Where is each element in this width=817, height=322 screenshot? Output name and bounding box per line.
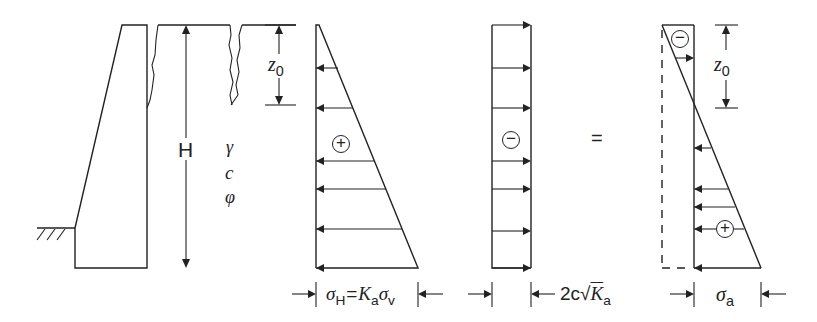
positive-sign-icon: +	[332, 135, 350, 153]
equals-sign: =	[591, 128, 603, 148]
diagram-net-pressure	[662, 25, 761, 272]
positive-sign-icon: +	[716, 220, 734, 238]
unit-weight-label: γ	[226, 138, 233, 156]
friction-angle-label: φ	[225, 188, 235, 206]
diagram-1-label: σH=Kaσv	[326, 284, 395, 303]
height-label: H	[178, 139, 193, 160]
diagram-2-label: 2c√Ka	[560, 284, 611, 303]
negative-sign-icon: −	[671, 30, 689, 48]
negative-sign-icon: −	[502, 131, 520, 149]
ground-hatch	[37, 228, 75, 240]
retaining-wall	[75, 25, 147, 268]
diagram-active-triangle	[316, 25, 418, 272]
diagram-3-label: σa	[716, 284, 734, 304]
crack-depth-label: z0	[268, 54, 284, 74]
earth-pressure-figure: H γ c φ z0 + σH=Kaσv − 2c√Ka = − + z0 σa	[0, 0, 817, 322]
diagram-2-width-dimension	[468, 282, 555, 307]
net-crack-depth-label: z0	[714, 54, 730, 74]
figure-drawing	[0, 0, 817, 322]
cohesion-label: c	[225, 163, 233, 182]
